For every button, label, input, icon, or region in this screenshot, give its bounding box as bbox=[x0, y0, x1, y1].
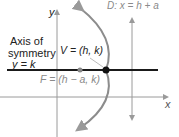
axis-of-symmetry-label-1: Axis of bbox=[10, 35, 44, 47]
y-axis-label: y bbox=[48, 6, 56, 18]
vertex-label: V = (h, k) bbox=[60, 44, 103, 56]
vertex-pointer bbox=[90, 58, 103, 67]
focus-label: F = (h − a, k) bbox=[40, 73, 100, 85]
focus-point bbox=[78, 68, 83, 73]
x-axis-label: x bbox=[164, 98, 171, 110]
vertex-point bbox=[103, 67, 110, 74]
directrix-label: D: x = h + a bbox=[107, 0, 159, 11]
parabola-diagram: y x D: x = h + a Axis of symmetry y = k … bbox=[0, 0, 179, 137]
axis-of-symmetry-label-3: y = k bbox=[11, 58, 36, 70]
